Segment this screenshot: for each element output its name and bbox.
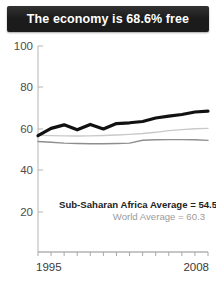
y-axis-label-100: 100 xyxy=(14,40,33,52)
y-axis-label-40: 40 xyxy=(20,164,33,176)
y-axis-label-80: 80 xyxy=(20,81,33,93)
page-title: The economy is 68.6% free xyxy=(7,6,209,32)
y-axis-ticks xyxy=(38,46,43,212)
y-axis-label-20: 20 xyxy=(20,206,33,218)
x-axis-label-start: 1995 xyxy=(36,261,62,273)
economic-freedom-chart-card: The economy is 68.6% free 100 80 60 40 2… xyxy=(0,0,216,290)
series-line-0 xyxy=(38,111,208,135)
annotation-region-average: Sub-Saharan Africa Average = 54.5 xyxy=(59,199,216,210)
annotation-world-average: World Average = 60.3 xyxy=(113,211,205,222)
series-line-2 xyxy=(38,140,208,144)
y-axis-label-60: 60 xyxy=(20,123,33,135)
line-chart: 100 80 60 40 20 1995 2008 Sub-Saharan Af… xyxy=(0,34,216,290)
header-banner: The economy is 68.6% free xyxy=(7,6,209,32)
series-layer xyxy=(38,111,208,144)
x-axis-label-end: 2008 xyxy=(183,261,209,273)
chart-area: 100 80 60 40 20 1995 2008 Sub-Saharan Af… xyxy=(0,34,216,290)
series-line-1 xyxy=(38,128,208,136)
x-axis-ticks xyxy=(38,252,208,256)
